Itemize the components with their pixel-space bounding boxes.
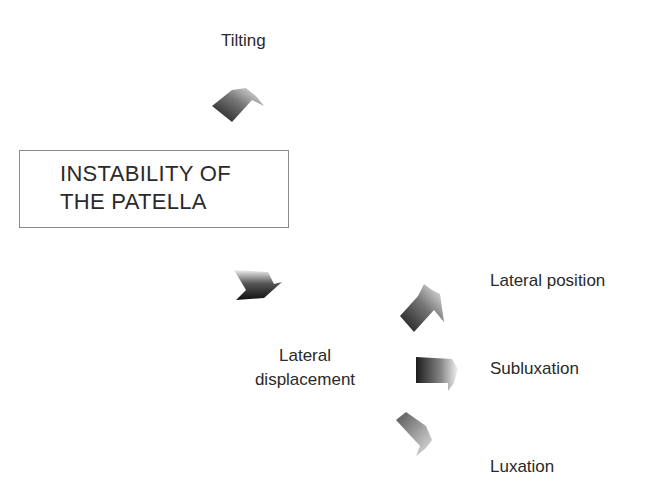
label-luxation: Luxation xyxy=(490,456,554,478)
label-tilting: Tilting xyxy=(221,30,266,52)
arrow-down-right-icon xyxy=(392,410,442,460)
arrow-up-right-icon xyxy=(208,82,268,127)
arrow-right-icon xyxy=(414,355,462,393)
main-concept-line1: INSTABILITY OF xyxy=(60,160,288,188)
arrow-up-right-icon xyxy=(396,282,450,334)
label-subluxation: Subluxation xyxy=(490,358,579,380)
label-lateral-displacement-2: displacement xyxy=(238,369,372,391)
label-lateral-displacement-1: Lateral xyxy=(238,345,372,367)
main-concept-box: INSTABILITY OF THE PATELLA xyxy=(19,150,289,228)
label-lateral-position: Lateral position xyxy=(490,270,605,292)
main-concept-line2: THE PATELLA xyxy=(60,188,288,216)
arrow-down-right-icon xyxy=(228,266,286,304)
